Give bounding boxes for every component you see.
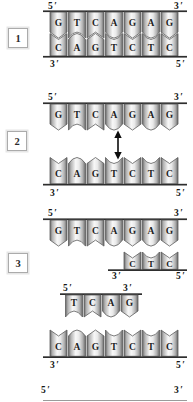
step2-bottom-right-5prime-label: 5′ (176, 188, 186, 198)
base-letter: C (55, 43, 62, 53)
base-letter: T (71, 298, 78, 308)
base-letter: G (55, 110, 63, 120)
next-panel-backbone-line (43, 400, 187, 402)
base-letter: G (92, 342, 100, 352)
base-letter: C (166, 259, 173, 269)
base-letter: A (108, 298, 115, 308)
base-letter: A (148, 110, 155, 120)
step-1-number-box: 1 (8, 28, 28, 48)
base-letter: A (74, 169, 81, 179)
base-letter: G (129, 110, 137, 120)
strand-backbone-line (108, 269, 187, 271)
base-letter: A (148, 226, 155, 236)
step3-bottom-right-5prime-label: 5′ (176, 360, 186, 370)
base-letter: G (92, 43, 100, 53)
step1-dna-duplex: GTCAGAGCAGTCTC (43, 9, 187, 59)
base-letter: A (111, 226, 118, 236)
base-letter: C (92, 110, 99, 120)
step-1-number: 1 (15, 33, 20, 44)
step2-bottom-left-3prime-label: 3′ (50, 188, 60, 198)
step-2-number: 2 (14, 136, 19, 147)
strand-backbone-line (43, 356, 187, 358)
base-letter: C (55, 169, 62, 179)
base-letter: C (55, 342, 62, 352)
step3-bottom-template-with-primer: TCAGCAGTCTC (43, 283, 187, 361)
base-letter: G (166, 110, 174, 120)
strand-backbone-line (43, 56, 187, 58)
base-letter: G (55, 18, 63, 28)
base-letter: C (166, 342, 173, 352)
base-letter: T (74, 18, 81, 28)
base-letter: A (74, 43, 81, 53)
base-letter: A (111, 18, 118, 28)
base-letter: T (74, 110, 81, 120)
base-letter: C (166, 43, 173, 53)
base-letter: G (166, 226, 174, 236)
base-letter: C (129, 43, 136, 53)
step-2-number-box: 2 (7, 131, 27, 151)
base-letter: C (129, 342, 136, 352)
step1-bottom-right-5prime-label: 5′ (176, 59, 186, 69)
base-letter: T (148, 342, 155, 352)
base-letter: G (92, 169, 100, 179)
base-letter: C (92, 18, 99, 28)
base-letter: C (129, 259, 136, 269)
pcr-denaturation-annealing-diagram: 1 2 3 5′ 3′ 3′ 5′ 5′ 3′ 3′ 5′ 5′ 3′ 3′ 5… (0, 0, 193, 402)
base-letter: C (92, 226, 99, 236)
base-letter: G (129, 18, 137, 28)
base-letter: G (166, 18, 174, 28)
base-letter: T (148, 169, 155, 179)
base-letter: T (148, 259, 154, 269)
base-letter: A (74, 342, 81, 352)
step1-bottom-left-3prime-label: 3′ (50, 59, 60, 69)
base-letter: C (89, 298, 96, 308)
base-letter: C (129, 169, 136, 179)
base-letter: T (111, 169, 118, 179)
base-letter: G (126, 298, 134, 308)
step3-top-template-with-primer: GTCAGAGCTC (43, 217, 187, 273)
base-letter: T (148, 43, 155, 53)
next-panel-right-3prime-label: 3′ (174, 385, 184, 395)
base-letter: T (74, 226, 81, 236)
strand-backbone-line (43, 184, 187, 186)
step-3-number-box: 3 (8, 253, 28, 273)
base-letter: C (166, 169, 173, 179)
step2-bottom-strand: CAGTCTC (43, 156, 187, 187)
step-3-number: 3 (15, 258, 20, 269)
base-letter: G (55, 226, 63, 236)
step2-top-strand: GTCAGAG (43, 101, 187, 133)
base-letter: T (111, 342, 118, 352)
next-panel-left-5prime-label: 5′ (41, 385, 51, 395)
step3-bottom-left-3prime-label: 3′ (50, 360, 60, 370)
base-letter: A (148, 18, 155, 28)
base-letter: T (111, 43, 118, 53)
base-letter: A (111, 110, 118, 120)
base-letter: G (129, 226, 137, 236)
